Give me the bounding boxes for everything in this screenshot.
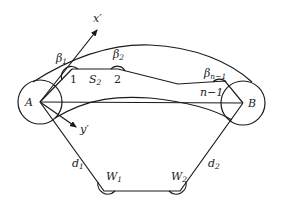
label-y-axis: y′	[79, 123, 89, 136]
lower-arc	[55, 97, 232, 120]
label-B: B	[247, 97, 256, 110]
label-node-2: 2	[114, 73, 121, 86]
label-S2: S2	[89, 73, 102, 87]
label-beta2: β2	[112, 48, 124, 62]
trajectory-diagram: A B x′ y′ 1 2 n−1 S2 β1 β2 βn−1 W1 W2 d1…	[0, 0, 281, 206]
label-d1: d1	[72, 157, 84, 171]
polygon-d1-bottom-d2	[40, 102, 243, 191]
label-d2: d2	[208, 157, 220, 171]
label-node-1: 1	[70, 73, 77, 86]
label-x-axis: x′	[93, 12, 102, 25]
label-A: A	[24, 96, 33, 109]
line-A-B	[40, 102, 243, 103]
angle-arc-W1	[98, 182, 115, 194]
x-axis-arrow	[40, 30, 97, 102]
label-beta1: β1	[55, 52, 67, 66]
label-node-n1: n−1	[200, 86, 223, 99]
label-beta-n1: βn−1	[203, 67, 226, 81]
label-W1: W1	[106, 170, 122, 184]
segment-A-1	[40, 69, 72, 102]
label-W2: W2	[171, 170, 187, 184]
